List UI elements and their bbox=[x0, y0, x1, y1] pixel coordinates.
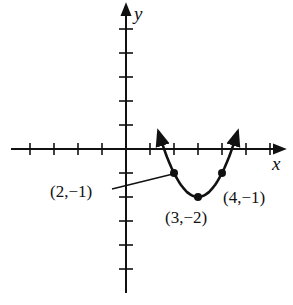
data-point bbox=[170, 169, 178, 177]
x-axis-label: x bbox=[271, 153, 281, 174]
data-point bbox=[194, 193, 202, 201]
marked-points bbox=[170, 169, 226, 201]
point-label-2-neg1: (2,−1) bbox=[50, 182, 92, 201]
y-axis-label: y bbox=[132, 3, 143, 24]
parabola-graph: x y (2,−1) (3,−2) (4,−1) bbox=[0, 0, 293, 305]
point-label-3-neg2: (3,−2) bbox=[165, 208, 207, 227]
data-point bbox=[218, 169, 226, 177]
point-label-4-neg1: (4,−1) bbox=[223, 188, 265, 207]
leader-line bbox=[112, 174, 173, 189]
